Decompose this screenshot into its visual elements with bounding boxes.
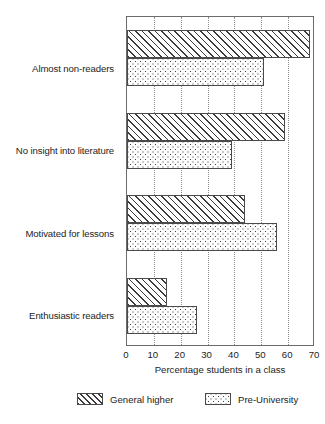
gridline-60 (288, 17, 289, 345)
category-label-1: No insight into literature (0, 145, 114, 156)
x-axis-tick-labels: 010203040506070 (126, 349, 314, 363)
bar-1-series-1 (127, 141, 232, 169)
bar-1-series-0 (127, 113, 285, 141)
category-label-2: Motivated for lessons (0, 228, 114, 239)
category-axis-labels: Almost non-readers No insight into liter… (0, 16, 120, 346)
legend-item-general-higher: General higher (77, 393, 173, 405)
x-tick-label-10: 10 (148, 349, 159, 361)
bar-0-series-0 (127, 30, 310, 58)
category-label-0: Almost non-readers (0, 63, 114, 74)
legend-swatch-hatch-icon (77, 393, 103, 405)
plot-inner (127, 17, 313, 345)
plot-area (126, 16, 314, 346)
x-tick-label-60: 60 (282, 349, 293, 361)
bar-0-series-1 (127, 58, 264, 86)
x-tick-label-20: 20 (174, 349, 185, 361)
legend-item-pre-university: Pre-University (205, 393, 298, 405)
bar-chart: Almost non-readers No insight into liter… (0, 0, 325, 424)
category-label-3: Enthusiastic readers (0, 310, 114, 321)
chart-legend: General higher Pre-University (60, 393, 310, 417)
bar-2-series-1 (127, 223, 277, 251)
x-tick-label-0: 0 (123, 349, 128, 361)
bar-3-series-0 (127, 278, 167, 306)
legend-label-1: Pre-University (238, 394, 298, 405)
legend-swatch-dots-icon (205, 393, 231, 405)
legend-label-0: General higher (110, 394, 173, 405)
bar-2-series-0 (127, 195, 245, 223)
bar-3-series-1 (127, 306, 197, 334)
x-tick-label-50: 50 (255, 349, 266, 361)
x-tick-label-70: 70 (309, 349, 320, 361)
x-tick-label-30: 30 (201, 349, 212, 361)
x-axis-title: Percentage students in a class (126, 364, 314, 375)
x-tick-label-40: 40 (228, 349, 239, 361)
